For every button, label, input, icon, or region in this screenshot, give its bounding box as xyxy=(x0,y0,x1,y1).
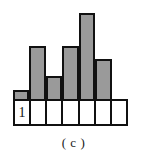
bar-6 xyxy=(95,59,111,101)
cell-3 xyxy=(47,101,63,124)
cell-7 xyxy=(112,101,126,124)
cell-2 xyxy=(31,101,47,124)
figure-c: 1 ( c ) xyxy=(0,0,147,160)
bar-chart-plot: 1 xyxy=(0,0,147,132)
bar-3 xyxy=(46,76,62,101)
cell-row: 1 xyxy=(13,99,128,126)
figure-caption: ( c ) xyxy=(0,136,147,149)
bar-5 xyxy=(79,13,95,101)
cell-6 xyxy=(96,101,112,124)
bar-4 xyxy=(62,46,78,101)
cell-1: 1 xyxy=(15,101,31,124)
cell-4 xyxy=(63,101,79,124)
bar-group xyxy=(13,0,128,101)
cell-5 xyxy=(80,101,96,124)
cell-label-1: 1 xyxy=(15,106,29,120)
bar-2 xyxy=(29,46,45,101)
